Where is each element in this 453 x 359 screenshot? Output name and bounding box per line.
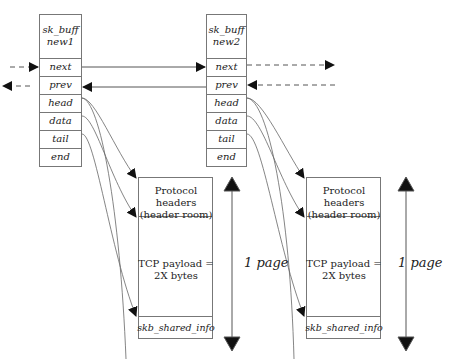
buffer-1-headers-line1: Protocol headers — [136, 185, 216, 209]
skb-new1-name: new1 — [39, 36, 82, 48]
skb-new2-field-next: next — [206, 58, 247, 76]
buffer-2-shared-info: skb_shared_info — [304, 322, 384, 334]
buffer-1-headers: Protocol headers (header room) — [136, 185, 216, 221]
buffer-1-shared-info: skb_shared_info — [136, 322, 216, 334]
skb-new2-type: sk_buff — [206, 24, 247, 36]
buffer-2-headers-line1: Protocol headers — [304, 185, 384, 209]
skb-new2-pointers — [247, 98, 304, 359]
buffer-2-headers-line2: (header room) — [304, 209, 384, 221]
buffer-2-payload-line2: 2X bytes — [304, 270, 384, 282]
skb-new1-type: sk_buff — [39, 24, 82, 36]
skb-new1-field-end: end — [39, 148, 82, 166]
skb-new1-pointers — [82, 98, 136, 359]
skb-new1-field-data: data — [39, 112, 82, 130]
skb-new1-field-head: head — [39, 94, 82, 112]
buffer-1-size-label: 1 page — [244, 255, 304, 270]
buffer-1-payload-line2: 2X bytes — [136, 270, 216, 282]
skb-new2-title: sk_buff new2 — [206, 24, 247, 48]
buffer-2-payload-line1: TCP payload = — [304, 258, 384, 270]
buffer-1-headers-line2: (header room) — [136, 209, 216, 221]
skb-new1-title: sk_buff new1 — [39, 24, 82, 48]
skb-new2-name: new2 — [206, 36, 247, 48]
skb-new2-field-head: head — [206, 94, 247, 112]
skb-new2-field-data: data — [206, 112, 247, 130]
buffer-1-payload: TCP payload = 2X bytes — [136, 258, 216, 282]
skb-new2-field-end: end — [206, 148, 247, 166]
diagram-canvas — [0, 0, 453, 359]
skb-new1-field-prev: prev — [39, 76, 82, 94]
skb-new2-field-tail: tail — [206, 130, 247, 148]
buffer-2-size-label: 1 page — [398, 255, 453, 270]
buffer-2-payload: TCP payload = 2X bytes — [304, 258, 384, 282]
skb-new1-field-next: next — [39, 58, 82, 76]
page-size-arrow-1 — [224, 177, 240, 351]
buffer-2-headers: Protocol headers (header room) — [304, 185, 384, 221]
buffer-1-payload-line1: TCP payload = — [136, 258, 216, 270]
skb-new1-field-tail: tail — [39, 130, 82, 148]
skb-new2-field-prev: prev — [206, 76, 247, 94]
